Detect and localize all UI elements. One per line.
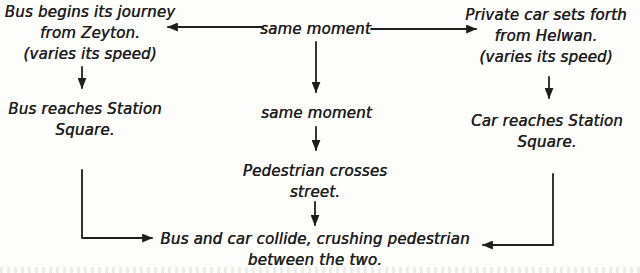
node-pedestrian-crosses: Pedestrian crosses street.	[225, 161, 405, 203]
node-car-start-line3: (varies its speed)	[454, 47, 638, 68]
node-same-moment-top-label: same moment	[260, 19, 370, 40]
node-bus-reaches-line2: Square.	[0, 120, 170, 141]
node-car-reaches-line2: Square.	[459, 132, 635, 153]
node-collision-line1: Bus and car collide, crushing pedestrian	[150, 229, 480, 250]
node-car-start-line1: Private car sets forth	[454, 5, 638, 26]
scan-noise-strip	[0, 267, 640, 273]
node-car-reaches-line1: Car reaches Station	[459, 111, 635, 132]
node-car-reaches-square: Car reaches Station Square.	[459, 111, 635, 153]
node-bus-start: Bus begins its journey from Zeyton. (var…	[0, 2, 180, 65]
node-bus-start-line1: Bus begins its journey	[0, 2, 180, 23]
node-pedestrian-line1: Pedestrian crosses	[225, 161, 405, 182]
flow-diagram: Bus begins its journey from Zeyton. (var…	[0, 0, 640, 273]
node-car-start-line2: from Helwan.	[454, 26, 638, 47]
node-same-moment-mid-label: same moment	[261, 103, 371, 124]
node-collision: Bus and car collide, crushing pedestrian…	[150, 229, 480, 271]
node-bus-reaches-square: Bus reaches Station Square.	[0, 99, 170, 141]
node-bus-reaches-line1: Bus reaches Station	[0, 99, 170, 120]
node-bus-start-line2: from Zeyton.	[0, 23, 180, 44]
arrow-car-reach-to-collision	[483, 174, 553, 245]
node-car-start: Private car sets forth from Helwan. (var…	[454, 5, 638, 68]
node-pedestrian-line2: street.	[225, 182, 405, 203]
node-same-moment-mid: same moment	[261, 103, 371, 124]
node-bus-start-line3: (varies its speed)	[0, 44, 180, 65]
node-same-moment-top: same moment	[260, 19, 370, 40]
arrow-bus-reach-to-collision	[82, 170, 152, 238]
